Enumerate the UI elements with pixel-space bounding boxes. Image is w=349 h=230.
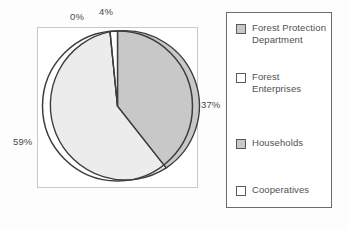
pie-label-forest-enterprises: 0% — [70, 11, 84, 22]
legend-swatch-icon — [236, 73, 246, 83]
legend-item-forest-enterprises: Forest Enterprises — [236, 71, 330, 94]
legend-item-cooperatives: Cooperatives — [236, 184, 309, 196]
legend-item-forest-protection-department: Forest Protection Department — [236, 22, 330, 45]
legend-swatch-icon — [236, 139, 246, 149]
pie-label-cooperatives: 4% — [99, 6, 113, 17]
legend-item-label: Cooperatives — [252, 184, 309, 196]
legend-item-label: Forest Enterprises — [252, 71, 330, 94]
legend-item-households: Households — [236, 137, 303, 149]
legend-item-label: Households — [252, 137, 303, 149]
legend-swatch-icon — [236, 186, 246, 196]
pie-label-forest-protection-department: 37% — [201, 99, 220, 110]
pie-chart-figure: 0% 4% 37% 59% Forest Protection Departme… — [0, 0, 349, 230]
legend-swatch-icon — [236, 24, 246, 34]
legend-item-label: Forest Protection Department — [252, 22, 330, 45]
pie-label-households: 59% — [13, 136, 32, 147]
legend: Forest Protection Department Forest Ente… — [226, 12, 332, 208]
